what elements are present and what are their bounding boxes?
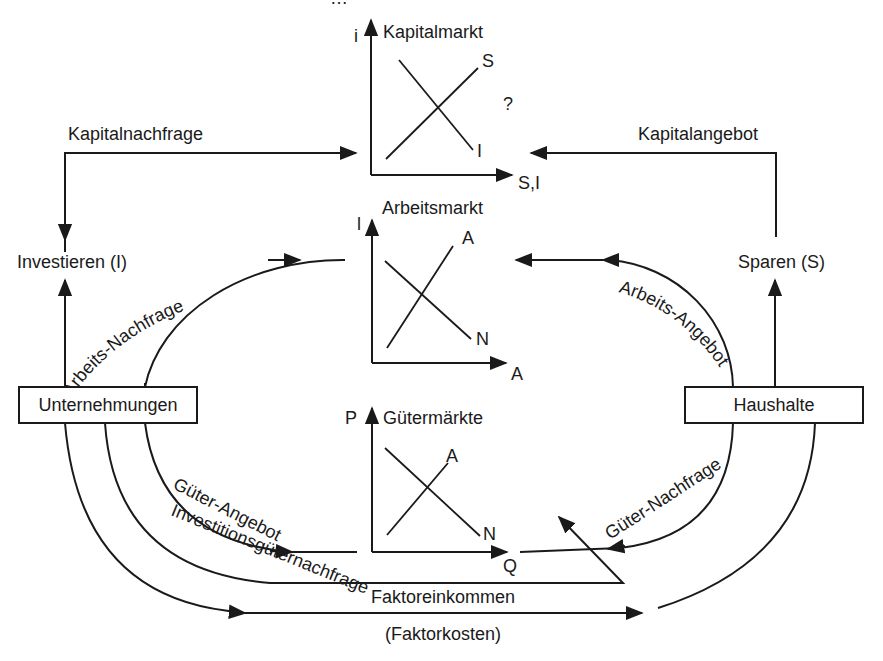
labor-market-title: Arbeitsmarkt (382, 198, 483, 218)
arrow-up-left-icon (559, 517, 565, 523)
factor-costs-label: (Faktorkosten) (385, 624, 501, 644)
goods-market-chart: P Gütermärkte A N Q (345, 408, 517, 576)
goods-x-label: Q (503, 556, 517, 576)
firms-label: Unternehmungen (38, 395, 177, 415)
goods-market-title: Gütermärkte (383, 408, 483, 428)
factor-income-flow: Faktoreinkommen (Faktorkosten) (65, 423, 815, 644)
capital-demand-line (65, 153, 355, 252)
labor-demand-label: Arbeits-Nachfrage (58, 295, 186, 399)
labor-supply-flow: Arbeits-Angebot (516, 260, 733, 387)
capital-curve-i-label: I (477, 141, 482, 161)
goods-curve-a-label: A (446, 446, 458, 466)
labor-curve-a-label: A (462, 228, 474, 248)
capital-question-mark: ? (503, 94, 513, 114)
capital-market-title: Kapitalmarkt (383, 22, 483, 42)
households-box: Haushalte (685, 387, 863, 423)
capital-supply-label: Kapitalangebot (638, 124, 758, 144)
capital-curve-s-label: S (482, 51, 494, 71)
labor-supply-label: Arbeits-Angebot (617, 277, 733, 370)
goods-demand-label: Güter-Nachfrage (601, 454, 724, 544)
investment-goods-flow: Investitionsgüternachfrage (105, 423, 623, 598)
arrow-right-icon (232, 612, 245, 613)
firms-box: Unternehmungen (19, 387, 197, 423)
factor-income-label: Faktoreinkommen (371, 587, 515, 607)
factor-right-arc (658, 423, 815, 608)
capital-supply-line (535, 153, 776, 237)
goods-demand-curve (385, 448, 480, 536)
goods-curve-n-label: N (483, 524, 496, 544)
capital-demand-label: Kapitalnachfrage (68, 124, 203, 144)
goods-demand-flow: Güter-Nachfrage (520, 423, 733, 552)
labor-market-chart: l Arbeitsmarkt A N A (357, 198, 523, 384)
goods-y-label: P (345, 408, 357, 428)
labor-curve-n-label: N (476, 329, 489, 349)
capital-x-label: S,I (518, 173, 540, 193)
capital-supply-curve (386, 68, 478, 159)
capital-y-label: i (354, 26, 358, 46)
labor-demand-curve (385, 261, 471, 339)
clipped-header-text: … (330, 0, 348, 8)
labor-supply-curve (387, 246, 453, 348)
labor-x-label: A (511, 364, 523, 384)
labor-demand-flow: Arbeits-Nachfrage (58, 260, 345, 400)
circular-flow-diagram: … i Kapitalmarkt S I ? S,I l Arbeitsmark… (0, 0, 883, 661)
households-label: Haushalte (733, 395, 814, 415)
capital-demand-curve (399, 60, 473, 150)
labor-demand-arc (145, 260, 345, 387)
save-node: Sparen (S) (738, 252, 825, 272)
capital-market-chart: i Kapitalmarkt S I ? S,I (354, 20, 540, 193)
capital-supply-flow: Kapitalangebot (531, 124, 776, 237)
capital-demand-flow: Kapitalnachfrage (65, 124, 356, 252)
labor-y-label: l (357, 214, 361, 234)
invest-node: Investieren (I) (17, 252, 127, 272)
